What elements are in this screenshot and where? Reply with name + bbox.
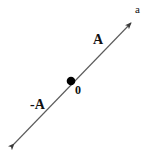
origin-label: 0 [75,84,81,96]
axis-line-graphic [0,0,153,160]
origin-point-marker [67,77,76,86]
figure-canvas: a A 0 -A [0,0,153,160]
axis-name-label: a [135,4,140,15]
negative-amplitude-label: -A [30,98,45,112]
positive-amplitude-label: A [93,33,103,47]
